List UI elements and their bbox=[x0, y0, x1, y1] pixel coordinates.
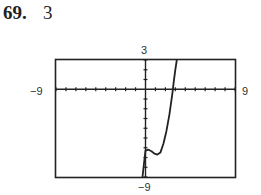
graph-plot bbox=[0, 0, 261, 195]
axes bbox=[56, 60, 235, 177]
function-curve bbox=[143, 60, 177, 177]
